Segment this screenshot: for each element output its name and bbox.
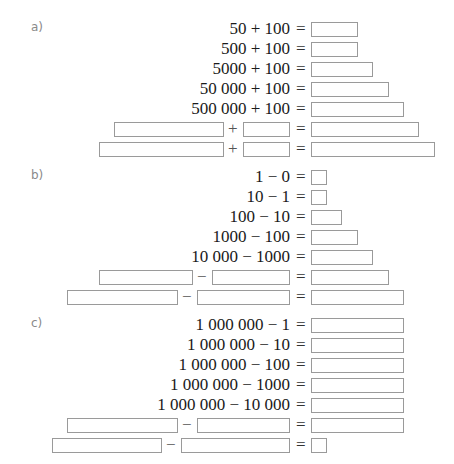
equals-sign: = [296,375,306,395]
answer-input[interactable] [311,378,404,393]
equals-sign: = [296,99,306,119]
equals-sign: = [296,395,306,415]
first-operand-input[interactable] [114,122,224,137]
equals-sign: = [296,139,306,159]
answer-input[interactable] [311,250,373,265]
equals-sign: = [296,415,306,435]
answer-input[interactable] [311,142,435,157]
equation-row: − = [0,438,454,454]
expression: 10 000 − 1000 [191,247,290,267]
expression: 10 − 1 [246,187,290,207]
equals-sign: = [296,435,306,455]
expression: 1 − 0 [255,167,290,187]
answer-input[interactable] [311,22,358,37]
equation-row: 5000 + 100 = [0,62,454,78]
equals-sign: = [296,207,306,227]
equation-row: + = [0,122,454,138]
answer-input[interactable] [311,62,373,77]
equals-sign: = [296,315,306,335]
answer-input[interactable] [311,102,404,117]
second-operand-input[interactable] [243,142,290,157]
answer-input[interactable] [311,270,389,285]
equation-row: 1 000 000 − 10 = [0,338,454,354]
equals-sign: = [296,287,306,307]
equation-row: 1 000 000 − 100 = [0,358,454,374]
answer-input[interactable] [311,230,358,245]
equation-row: 100 − 10 = [0,210,454,226]
equation-row: 10 000 − 1000 = [0,250,454,266]
equals-sign: = [296,227,306,247]
equation-row: 500 000 + 100 = [0,102,454,118]
equation-row: 1 000 000 − 10 000 = [0,398,454,414]
equation-row: 50 000 + 100 = [0,82,454,98]
answer-input[interactable] [311,42,358,57]
second-operand-input[interactable] [212,270,290,285]
expression: 1 000 000 − 10 [187,335,290,355]
answer-input[interactable] [311,418,404,433]
equals-sign: = [296,247,306,267]
expression: 500 000 + 100 [191,99,290,119]
equation-row: 1 000 000 − 1 = [0,318,454,334]
equation-row: 1 000 000 − 1000 = [0,378,454,394]
answer-input[interactable] [311,170,327,185]
equals-sign: = [296,59,306,79]
plus-sign: + [228,139,238,159]
equals-sign: = [296,267,306,287]
minus-sign: − [182,287,192,307]
answer-input[interactable] [311,398,404,413]
expression: 500 + 100 [221,39,290,59]
equals-sign: = [296,79,306,99]
answer-input[interactable] [311,358,404,373]
equation-row: 500 + 100 = [0,42,454,58]
first-operand-input[interactable] [99,142,224,157]
second-operand-input[interactable] [197,290,290,305]
equation-row: 1 − 0 = [0,170,454,186]
equation-row: − = [0,270,454,286]
second-operand-input[interactable] [181,438,290,453]
equation-row: + = [0,142,454,158]
equation-row: 50 + 100 = [0,22,454,38]
expression: 1000 − 100 [212,227,290,247]
expression: 1 000 000 − 10 000 [157,395,290,415]
first-operand-input[interactable] [52,438,162,453]
equation-row: 10 − 1 = [0,190,454,206]
answer-input[interactable] [311,318,404,333]
second-operand-input[interactable] [243,122,290,137]
first-operand-input[interactable] [67,418,178,433]
answer-input[interactable] [311,122,419,137]
minus-sign: − [182,415,192,435]
answer-input[interactable] [311,438,327,453]
minus-sign: − [166,435,176,455]
equals-sign: = [296,167,306,187]
equals-sign: = [296,119,306,139]
equals-sign: = [296,187,306,207]
expression: 50 + 100 [229,19,290,39]
plus-sign: + [228,119,238,139]
equation-row: − = [0,418,454,434]
expression: 1 000 000 − 1 [195,315,290,335]
answer-input[interactable] [311,190,327,205]
answer-input[interactable] [311,82,389,97]
first-operand-input[interactable] [67,290,178,305]
answer-input[interactable] [311,210,342,225]
expression: 1 000 000 − 1000 [170,375,290,395]
minus-sign: − [197,267,207,287]
second-operand-input[interactable] [197,418,290,433]
equals-sign: = [296,355,306,375]
equals-sign: = [296,19,306,39]
equals-sign: = [296,335,306,355]
equals-sign: = [296,39,306,59]
expression: 5000 + 100 [212,59,290,79]
expression: 100 − 10 [229,207,290,227]
first-operand-input[interactable] [99,270,193,285]
expression: 50 000 + 100 [200,79,290,99]
expression: 1 000 000 − 100 [178,355,290,375]
answer-input[interactable] [311,290,404,305]
equation-row: − = [0,290,454,306]
equation-row: 1000 − 100 = [0,230,454,246]
answer-input[interactable] [311,338,404,353]
